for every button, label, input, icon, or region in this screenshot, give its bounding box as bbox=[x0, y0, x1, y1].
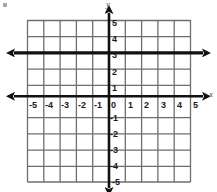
x-tick-label-neg5: -5 bbox=[29, 100, 37, 110]
x-tick-label-2: 2 bbox=[144, 100, 149, 110]
x-tick-label-neg1: -1 bbox=[94, 100, 102, 110]
y-tick-label-neg2: -2 bbox=[110, 129, 118, 139]
y-tick-label-1: 1 bbox=[112, 83, 117, 93]
y-axis-label: y bbox=[106, 0, 110, 9]
x-tick-label-neg4: -4 bbox=[45, 100, 53, 110]
x-axis-label: x bbox=[209, 90, 213, 99]
y-tick-label-4: 4 bbox=[112, 34, 117, 44]
y-tick-label-neg5: -5 bbox=[112, 177, 120, 187]
origin-label: 0 bbox=[111, 100, 116, 110]
y-tick-label-neg4: -4 bbox=[110, 161, 118, 171]
x-tick-label-3: 3 bbox=[161, 100, 166, 110]
coordinate-plane-figure: y x -5 -4 -3 -2 -1 0 1 2 3 4 5 5 4 3 2 1… bbox=[0, 0, 217, 192]
y-tick-label-3: 3 bbox=[112, 50, 117, 60]
y-tick-label-neg3: -3 bbox=[110, 145, 118, 155]
y-tick-label-2: 2 bbox=[112, 67, 117, 77]
y-tick-label-5: 5 bbox=[112, 18, 117, 28]
x-tick-label-1: 1 bbox=[128, 100, 133, 110]
x-tick-label-5: 5 bbox=[193, 100, 198, 110]
x-tick-label-4: 4 bbox=[177, 100, 182, 110]
x-tick-label-neg3: -3 bbox=[61, 100, 69, 110]
x-tick-label-neg2: -2 bbox=[78, 100, 86, 110]
y-tick-label-neg1: -1 bbox=[110, 113, 118, 123]
coordinate-plane-canvas bbox=[0, 0, 217, 192]
